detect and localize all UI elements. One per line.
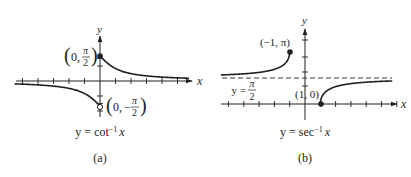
point-label-left-b: (−1, π)	[260, 36, 290, 49]
svg-text:π: π	[83, 45, 89, 56]
point-label-right-b: (1, 0)	[295, 88, 319, 101]
arccot-branch-negative	[15, 84, 99, 105]
figure: x y ( 0 , π 2 ) ( 0 , − π 2	[0, 0, 411, 177]
y-axis-label-a: y	[96, 23, 102, 35]
svg-text:(: (	[106, 94, 113, 117]
arcsec-branch-right	[320, 81, 392, 104]
svg-text:π: π	[132, 95, 138, 106]
point-label-upper-a: ( 0 , π 2 )	[64, 44, 98, 68]
sublabel-b: (b)	[298, 151, 312, 165]
asymptote-label: y = π 2	[232, 78, 256, 102]
arcsec-branch-left	[221, 52, 290, 75]
svg-text:,: ,	[77, 50, 80, 64]
x-axis-label-a: x	[196, 74, 203, 88]
svg-text:,: ,	[119, 100, 122, 114]
svg-text:): )	[140, 94, 147, 117]
caption-b: y = sec−1x	[280, 125, 331, 139]
panel-a: x y ( 0 , π 2 ) ( 0 , − π 2	[15, 23, 203, 165]
svg-text:2: 2	[132, 107, 137, 118]
filled-endpoint-right-b	[318, 101, 324, 107]
panel-b: x y (−1, π) (1, 0) y = π 2 y = sec−1x (b…	[221, 14, 407, 165]
open-endpoint-a	[97, 104, 102, 109]
filled-endpoint-a	[97, 53, 103, 59]
arccot-branch-positive	[100, 56, 189, 78]
point-label-lower-a: ( 0 , − π 2 )	[106, 94, 147, 118]
svg-text:(: (	[64, 44, 71, 67]
x-axis-label-b: x	[400, 97, 407, 111]
y-axis-label-b: y	[301, 14, 307, 26]
svg-text:): )	[91, 44, 98, 67]
svg-text:2: 2	[83, 57, 88, 68]
svg-text:2: 2	[250, 91, 255, 102]
sublabel-a: (a)	[93, 151, 106, 165]
svg-text:π: π	[249, 78, 255, 89]
svg-text:−: −	[124, 100, 131, 114]
filled-endpoint-left-b	[287, 49, 293, 55]
svg-text:y =: y =	[232, 84, 246, 96]
caption-a: y = cot−1x	[75, 125, 125, 139]
